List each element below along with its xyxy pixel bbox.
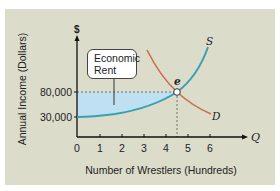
x-tick-labels: 0 1 2 3 4 5 6 [74, 142, 213, 154]
y-tick-label-30000: 30,000 [40, 111, 72, 123]
x-axis-symbol: Q [251, 131, 260, 144]
callout-line-2: Rent [94, 64, 136, 76]
y-axis-arrow-icon [75, 35, 80, 41]
economic-rent-area [77, 92, 177, 117]
equilibrium-label: e [174, 75, 181, 87]
supply-label: S [206, 35, 213, 47]
economic-rent-callout: Economic Rent [87, 49, 137, 79]
svg-text:1: 1 [97, 142, 103, 154]
svg-text:5: 5 [185, 142, 191, 154]
callout-line-1: Economic [94, 52, 136, 64]
svg-text:2: 2 [119, 142, 125, 154]
y-tick-label-80000: 80,000 [40, 86, 72, 98]
y-axis-title: Annual Income (Dollars) [16, 33, 28, 146]
x-axis-arrow-icon [242, 135, 248, 140]
x-axis-title: Number of Wrestlers (Hundreds) [85, 164, 237, 176]
demand-label: D [211, 110, 221, 122]
economic-rent-chart: $ Q 80,000 30,000 0 1 2 3 4 5 6 Number o… [0, 0, 280, 191]
y-axis-symbol: $ [74, 24, 80, 35]
equilibrium-point [174, 89, 181, 96]
svg-text:6: 6 [207, 142, 213, 154]
svg-text:0: 0 [74, 142, 80, 154]
svg-text:3: 3 [141, 142, 147, 154]
svg-text:4: 4 [163, 142, 169, 154]
